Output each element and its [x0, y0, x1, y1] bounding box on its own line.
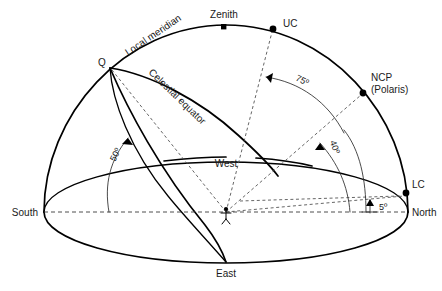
lc-marker: [403, 190, 410, 197]
angle-arrow-5: [366, 199, 374, 206]
celestial-sphere-diagram: Zenith UC NCP (Polaris) LC Q North South…: [0, 0, 442, 291]
horizon-ellipse-back: [44, 162, 408, 212]
observer-leg-right: [226, 219, 230, 224]
label-south: South: [12, 207, 38, 218]
lc-horizon-parallel: [240, 196, 400, 201]
celestial-equator-back: [110, 68, 278, 176]
radius-to-ncp: [226, 95, 361, 212]
angle-arrow-75: [266, 73, 273, 83]
label-celestial-equator: Celestial equator: [147, 67, 209, 128]
label-local-meridian: Local meridian: [123, 12, 183, 57]
uc-marker: [270, 26, 277, 33]
label-west: West: [215, 158, 238, 169]
radius-to-uc: [226, 32, 272, 212]
label-ncp: NCP: [371, 72, 392, 83]
diagram-canvas: Zenith UC NCP (Polaris) LC Q North South…: [0, 0, 442, 291]
label-lc: LC: [412, 179, 425, 190]
label-q: Q: [98, 57, 106, 68]
label-east: East: [216, 268, 236, 279]
observer-figure: [221, 207, 231, 224]
ncp-marker: [360, 90, 367, 97]
label-north: North: [412, 207, 436, 218]
label-ncp-polaris: (Polaris): [371, 84, 408, 95]
angle-label-75: 75º: [294, 73, 311, 88]
zenith-marker: [221, 24, 226, 29]
angle-label-40: 40º: [328, 139, 342, 156]
label-zenith: Zenith: [210, 9, 238, 20]
label-uc: UC: [283, 18, 297, 29]
dome-outline: [44, 25, 408, 212]
observer-head: [224, 207, 228, 211]
angle-label-5: 5º: [379, 202, 388, 212]
observer-leg-left: [222, 219, 226, 224]
